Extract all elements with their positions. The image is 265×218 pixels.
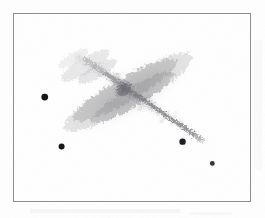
sky-image bbox=[14, 14, 250, 201]
point-source-star-3 bbox=[176, 135, 189, 148]
point-source-star-1 bbox=[39, 92, 50, 103]
point-source-star-2 bbox=[57, 142, 67, 152]
figure-panel bbox=[0, 0, 265, 218]
point-source-star-4 bbox=[208, 159, 217, 168]
image-frame bbox=[13, 13, 251, 202]
